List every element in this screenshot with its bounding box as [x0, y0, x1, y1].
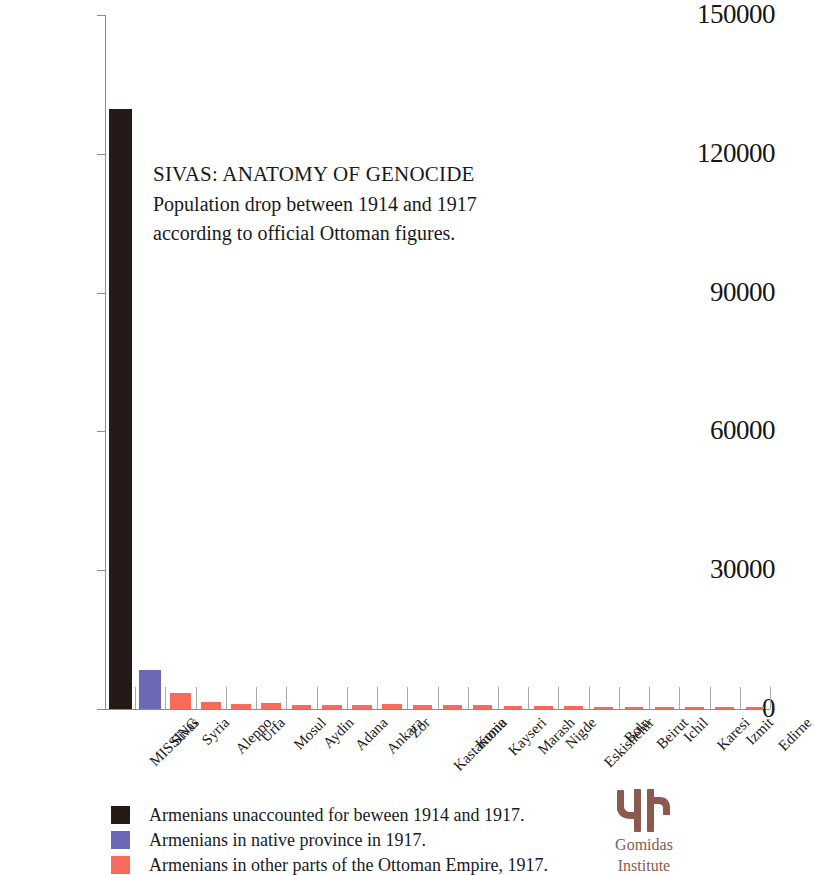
- x-axis-tick: [558, 15, 559, 709]
- bar: [534, 706, 553, 709]
- x-axis-tick-label: Konia: [472, 715, 509, 752]
- x-axis-tick: [649, 15, 650, 709]
- bar: [322, 705, 342, 709]
- bar: [292, 705, 312, 709]
- bar: [201, 702, 221, 709]
- x-axis-tick: [165, 15, 166, 709]
- x-axis-tick-mark: [679, 687, 680, 709]
- x-axis-tick: [740, 15, 741, 709]
- legend-color-swatch: [111, 856, 130, 874]
- x-axis-tick-mark: [196, 687, 197, 709]
- x-axis-tick: [256, 15, 257, 709]
- chart-subtitle-line-2: according to official Ottoman figures.: [153, 219, 553, 248]
- x-axis-tick-mark: [619, 687, 620, 709]
- x-axis-tick: [438, 15, 439, 709]
- x-axis-tick-mark: [165, 687, 166, 709]
- x-axis-tick: [377, 15, 378, 709]
- x-axis-tick-mark: [498, 687, 499, 709]
- x-axis-tick: [347, 15, 348, 709]
- x-axis-line: [105, 709, 770, 710]
- x-axis-tick-label: Edirne: [776, 715, 814, 754]
- legend-label: Armenians in other parts of the Ottoman …: [149, 856, 548, 874]
- bar: [504, 706, 523, 709]
- x-axis-tick: [498, 15, 499, 709]
- bar: [594, 707, 613, 709]
- chart-title: SIVAS: ANATOMY OF GENOCIDE: [153, 160, 553, 190]
- bar: [382, 704, 402, 709]
- x-axis-tick-mark: [528, 687, 529, 709]
- legend-item: Armenians unaccounted for beween 1914 an…: [111, 803, 581, 826]
- chart-subtitle-line-1: Population drop between 1914 and 1917: [153, 190, 553, 219]
- x-axis-tick-mark: [286, 687, 287, 709]
- x-axis-tick-mark: [317, 687, 318, 709]
- bar: [352, 705, 372, 709]
- legend-label: Armenians unaccounted for beween 1914 an…: [149, 806, 524, 824]
- x-axis-tick: [710, 15, 711, 709]
- chart-title-block: SIVAS: ANATOMY OF GENOCIDE Population dr…: [153, 160, 553, 248]
- x-axis-tick: [286, 15, 287, 709]
- x-axis-tick: [196, 15, 197, 709]
- x-axis-tick-mark: [438, 687, 439, 709]
- bar: [685, 707, 704, 709]
- x-axis-tick-mark: [407, 687, 408, 709]
- x-axis-tick-mark: [740, 687, 741, 709]
- x-axis-tick: [317, 15, 318, 709]
- x-axis-tick-label: Aydin: [321, 715, 357, 751]
- bar: [231, 704, 251, 709]
- gomidas-logo-mark-icon: [613, 788, 675, 834]
- x-axis-labels: MISSINGSivasSyriaAleppoUrfaMosulAydinAda…: [105, 711, 770, 791]
- bar: [473, 705, 492, 709]
- x-axis-tick: [589, 15, 590, 709]
- legend-color-swatch: [111, 831, 130, 849]
- chart-legend: Armenians unaccounted for beween 1914 an…: [111, 803, 581, 875]
- x-axis-tick-mark: [649, 687, 650, 709]
- x-axis-tick: [619, 15, 620, 709]
- x-axis-tick-mark: [135, 687, 136, 709]
- legend-label: Armenians in native province in 1917.: [149, 831, 426, 849]
- x-axis-tick-mark: [226, 687, 227, 709]
- bar: [655, 707, 674, 709]
- legend-item: Armenians in other parts of the Ottoman …: [111, 853, 581, 875]
- x-axis-tick-mark: [347, 687, 348, 709]
- bar: [625, 707, 644, 709]
- x-axis-tick-mark: [468, 687, 469, 709]
- x-axis-tick-mark: [770, 687, 771, 709]
- gomidas-institute-logo: Gomidas Institute: [596, 788, 692, 875]
- x-axis-tick-label: Sivas: [169, 715, 203, 749]
- x-axis-tick: [679, 15, 680, 709]
- bar: [139, 670, 161, 709]
- x-axis-tick-label: Mosul: [291, 715, 329, 753]
- x-axis-tick-mark: [589, 687, 590, 709]
- bar: [261, 703, 281, 709]
- x-axis-tick: [770, 15, 771, 709]
- x-axis-tick-label: Syria: [199, 715, 232, 748]
- y-axis-tick: [97, 709, 106, 710]
- legend-item: Armenians in native province in 1917.: [111, 828, 581, 851]
- bar: [746, 707, 765, 709]
- bar: [413, 705, 432, 709]
- bar: [109, 109, 132, 709]
- x-axis-tick: [468, 15, 469, 709]
- bar: [170, 693, 191, 709]
- x-axis-tick: [135, 15, 136, 709]
- bar: [715, 707, 734, 709]
- bar: [564, 706, 583, 709]
- logo-name-line-1: Gomidas: [596, 836, 692, 855]
- x-axis-tick-mark: [377, 687, 378, 709]
- bar: [443, 705, 462, 709]
- x-axis-tick-mark: [256, 687, 257, 709]
- logo-name-line-2: Institute: [596, 857, 692, 875]
- legend-color-swatch: [111, 806, 130, 824]
- x-axis-tick: [226, 15, 227, 709]
- x-axis-tick-mark: [710, 687, 711, 709]
- x-axis-tick-mark: [558, 687, 559, 709]
- x-axis-tick: [407, 15, 408, 709]
- x-axis-tick: [528, 15, 529, 709]
